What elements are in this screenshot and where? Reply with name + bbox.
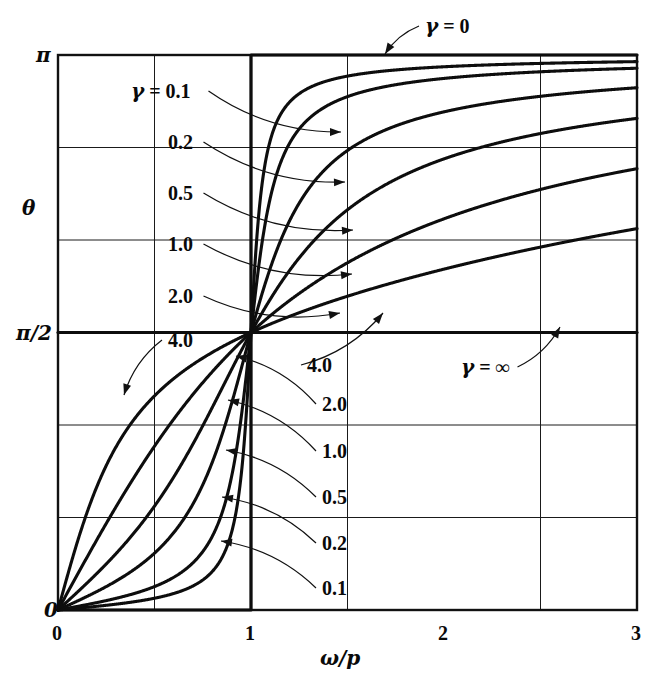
x-axis-title: ω/p: [320, 648, 360, 668]
gamma-1p0-top-arrowhead: [341, 271, 352, 279]
annotation-gamma-0p1-top: γ = 0.1: [131, 81, 191, 101]
annotation-gamma-2p0-bottom: 2.0: [322, 394, 347, 414]
annotation-gamma-0p5-bottom: 0.5: [322, 487, 347, 507]
annotation-gamma-infinity: γ = ∞: [461, 357, 510, 377]
x-tick-label-3: 3: [631, 623, 641, 643]
y-tick-label-1: π/2: [16, 323, 52, 343]
y-tick-label-0: π: [36, 45, 51, 65]
annotation-gamma-2p0-top: 2.0: [168, 286, 193, 306]
annotation-gamma-0p1-bottom: 0.1: [322, 578, 347, 598]
x-tick-label-0: 0: [52, 623, 62, 643]
gamma-0p2-bottom-arrowhead: [222, 495, 233, 503]
gamma-4p0-top-arrowhead: [123, 383, 131, 395]
gamma-0p2-top-arrowhead: [334, 178, 345, 186]
annotation-gamma-1p0-bottom: 1.0: [322, 441, 347, 461]
y-axis-title: θ: [22, 198, 35, 218]
phase-angle-chart: γ = 0γ = 0.10.20.51.02.04.04.0γ = ∞2.01.…: [0, 0, 657, 683]
gamma-0p1-top-arrowhead: [330, 128, 341, 136]
annotation-gamma-zero: γ = 0: [425, 16, 470, 36]
annotation-gamma-4p0-right: 4.0: [307, 355, 332, 375]
gamma-2p0-top-arrowhead: [328, 311, 340, 319]
gamma-0p5-bottom-arrowhead: [226, 448, 238, 456]
x-tick-label-1: 1: [245, 623, 255, 643]
x-tick-label-2: 2: [438, 623, 448, 643]
gamma-0p1-bottom-leader: [221, 541, 316, 588]
annotation-gamma-1p0-top: 1.0: [168, 234, 193, 254]
y-tick-label-2: 0: [44, 600, 58, 620]
annotation-gamma-0p5-top: 0.5: [168, 183, 193, 203]
gamma-0p2-top-leader: [204, 142, 346, 182]
annotation-gamma-0p2-bottom: 0.2: [322, 533, 347, 553]
annotation-gamma-0p2-top: 0.2: [168, 132, 193, 152]
annotation-gamma-4p0-top: 4.0: [168, 330, 193, 350]
